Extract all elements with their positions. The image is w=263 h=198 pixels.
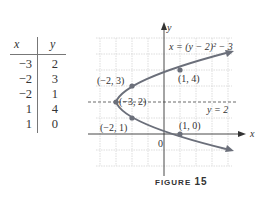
point-label: (1, 0) [179, 120, 201, 132]
y-axis-label: y [166, 22, 172, 33]
point-label: (−3, 2) [119, 96, 146, 108]
point-neg3-2 [113, 99, 118, 104]
equation-label: x = (y − 2)² − 3 [168, 41, 233, 53]
x-axis-label: x [249, 128, 255, 139]
curve-arrow-lower-icon [225, 145, 234, 152]
figure-caption: FIGURE 15 [155, 176, 208, 187]
origin-label: 0 [158, 138, 163, 149]
parabola-graph: y x 0 x = (y − 2)² − 3 y = 2 (−2, 3) (−3… [0, 0, 263, 198]
point-neg2-3 [129, 83, 134, 88]
point-1-4 [177, 67, 182, 72]
symmetry-line-label: y = 2 [206, 104, 228, 115]
x-axis-arrow-icon [238, 131, 246, 137]
point-label: (−2, 1) [100, 122, 127, 134]
point-label: (1, 4) [178, 73, 200, 85]
point-neg2-1 [129, 115, 134, 120]
figure-label: FIGURE [155, 178, 191, 187]
point-1-0 [177, 131, 182, 136]
figure-number: 15 [194, 176, 207, 187]
point-label: (−2, 3) [97, 75, 124, 87]
